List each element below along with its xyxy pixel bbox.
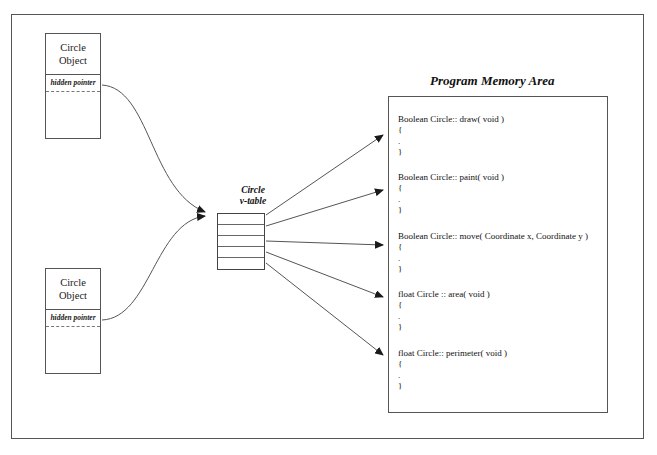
method-signature-perimeter: float Circle:: perimeter( void ) <box>398 348 507 359</box>
vtable-slot-1 <box>218 225 264 236</box>
method-close-brace-paint: } <box>398 205 504 216</box>
method-body-dot-area: . <box>398 311 490 322</box>
vtable-box <box>217 213 265 270</box>
method-body-dot-perimeter: . <box>398 370 507 381</box>
method-open-brace-area: { <box>398 300 490 311</box>
circle-object-title-line1: Circle <box>60 42 86 53</box>
vtable-label-line2: v-table <box>240 196 266 206</box>
method-open-brace-perimeter: { <box>398 359 507 370</box>
method-close-brace-move: } <box>398 264 588 275</box>
vtable-slot-3 <box>218 247 264 258</box>
circle-object-body-bottom <box>46 327 100 373</box>
method-body-dot-draw: . <box>398 136 504 147</box>
vtable-label-line1: Circle <box>241 185 265 195</box>
method-close-brace-area: } <box>398 322 490 333</box>
method-signature-draw: Boolean Circle:: draw( void ) <box>398 114 504 125</box>
method-block-move: Boolean Circle:: move( Coordinate x, Coo… <box>398 231 588 275</box>
circle-object-body-top <box>46 92 100 138</box>
method-open-brace-paint: { <box>398 183 504 194</box>
circle-object-box-top: Circle Object hidden pointer <box>45 33 101 139</box>
program-memory-area-title: Program Memory Area <box>430 73 554 89</box>
method-block-perimeter: float Circle:: perimeter( void ) { . } <box>398 348 507 392</box>
hidden-pointer-label-top: hidden pointer <box>46 75 100 92</box>
circle-object-box-bottom: Circle Object hidden pointer <box>45 268 101 374</box>
method-block-area: float Circle :: area( void ) { . } <box>398 289 490 333</box>
method-block-draw: Boolean Circle:: draw( void ) { . } <box>398 114 504 158</box>
vtable-slot-4 <box>218 258 264 269</box>
method-open-brace-draw: { <box>398 125 504 136</box>
circle-object-title-line2-bottom: Object <box>59 290 87 301</box>
method-body-dot-move: . <box>398 253 588 264</box>
program-memory-area-box: Boolean Circle:: draw( void ) { . } Bool… <box>388 96 608 413</box>
method-open-brace-move: { <box>398 242 588 253</box>
hidden-pointer-label-bottom: hidden pointer <box>46 310 100 327</box>
circle-object-title-line1-bottom: Circle <box>60 277 86 288</box>
circle-object-title-line2: Object <box>59 55 87 66</box>
method-block-paint: Boolean Circle:: paint( void ) { . } <box>398 172 504 216</box>
vtable-label: Circle v-table <box>218 185 288 207</box>
method-close-brace-draw: } <box>398 147 504 158</box>
method-signature-area: float Circle :: area( void ) <box>398 289 490 300</box>
diagram-canvas: Circle Object hidden pointer Circle Obje… <box>0 0 657 455</box>
method-signature-paint: Boolean Circle:: paint( void ) <box>398 172 504 183</box>
circle-object-title-bottom: Circle Object <box>46 269 100 310</box>
circle-object-title-top: Circle Object <box>46 34 100 75</box>
vtable-slot-2 <box>218 236 264 247</box>
method-close-brace-perimeter: } <box>398 381 507 392</box>
vtable-slot-0 <box>218 214 264 225</box>
method-signature-move: Boolean Circle:: move( Coordinate x, Coo… <box>398 231 588 242</box>
method-body-dot-paint: . <box>398 194 504 205</box>
